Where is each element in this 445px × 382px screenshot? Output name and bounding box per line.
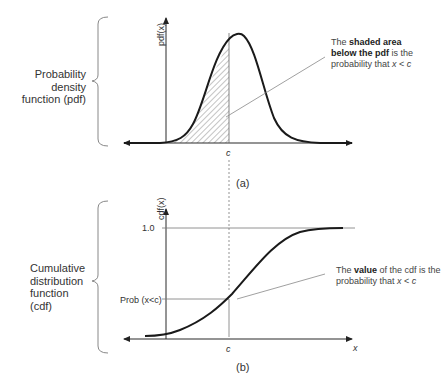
cdf-tick-one: 1.0 <box>142 222 155 234</box>
pdf-shaded-area <box>166 43 229 143</box>
pdf-brace <box>92 17 108 146</box>
cdf-panel <box>92 201 355 353</box>
pdf-annotation: The shaded area below the pdf is the pro… <box>331 37 443 70</box>
cdf-annotation-pointer <box>237 274 325 299</box>
cdf-c-marker: c <box>226 343 231 355</box>
pdf-curve <box>124 34 352 143</box>
cdf-x-axis-label: x <box>353 342 358 354</box>
pdf-side-label: Probability density function (pdf) <box>4 68 86 106</box>
pdf-c-marker: c <box>226 147 231 159</box>
cdf-y-axis-label: cdf(x) <box>155 198 167 221</box>
pdf-panel <box>92 17 352 290</box>
pdf-caption: (a) <box>236 177 249 189</box>
cdf-annotation: The value of the cdf is the probability … <box>336 265 444 287</box>
cdf-tick-prob: Prob (x<c) <box>120 294 162 306</box>
pdf-annotation-pointer <box>226 57 325 117</box>
cdf-side-label: Cumulative distribution function (cdf) <box>30 262 90 312</box>
pdf-y-axis-label: pdf(x) <box>155 23 167 46</box>
cdf-caption: (b) <box>236 361 249 373</box>
cdf-brace <box>92 201 108 353</box>
cdf-curve <box>145 228 343 336</box>
